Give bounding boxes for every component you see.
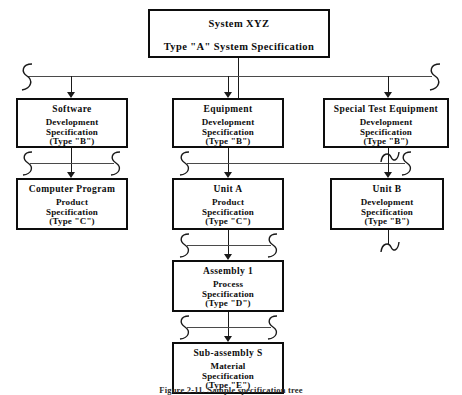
node-unit-b-spec-line3: (Type "B") (332, 217, 442, 227)
node-assembly-1: Assembly 1 Process Specification (Type "… (172, 260, 284, 312)
break-mark-right-software-bus (108, 150, 124, 177)
node-system-xyz-title: System XYZ (150, 18, 328, 30)
node-equipment-spec: Development Specification (Type "B") (174, 118, 282, 147)
node-assembly-1-title: Assembly 1 (174, 265, 282, 277)
node-computer-program: Computer Program Product Specification (… (16, 178, 128, 230)
node-unit-b-spec: Development Specification (Type "B") (332, 198, 442, 227)
break-mark-left-unit-a-bus (177, 232, 193, 259)
node-special-test-equipment-title: Special Test Equipment (325, 103, 447, 115)
node-special-test-equipment-spec: Development Specification (Type "B") (325, 118, 447, 147)
node-unit-b-title: Unit B (332, 183, 442, 195)
node-computer-program-spec: Product Specification (Type "C") (18, 198, 126, 227)
break-mark-left-software-bus (20, 150, 36, 177)
bus-line-row1 (28, 76, 432, 77)
specification-tree-diagram: System XYZ Type "A" System Specification… (0, 0, 462, 395)
break-mark-right-assembly-1-bus (265, 314, 281, 341)
node-assembly-1-spec: Process Specification (Type "D") (174, 280, 282, 309)
node-equipment-title: Equipment (174, 103, 282, 115)
break-mark-left-row1 (18, 62, 36, 92)
break-mark-right-row1 (426, 62, 444, 92)
break-mark-right-unit-a-bus (265, 232, 281, 259)
bus-line-equipment (187, 163, 405, 164)
node-computer-program-title: Computer Program (18, 183, 126, 195)
node-unit-a-spec-line3: (Type "C") (174, 217, 282, 227)
node-software-spec: Development Specification (Type "B") (18, 118, 126, 147)
bus-line-software (30, 163, 114, 164)
node-subassembly-s-title: Sub-assembly S (174, 347, 282, 359)
node-unit-a: Unit A Product Specification (Type "C") (172, 178, 284, 230)
node-software-spec-line3: (Type "B") (18, 137, 126, 147)
node-software-title: Software (18, 103, 126, 115)
node-unit-b: Unit B Development Specification (Type "… (330, 178, 444, 230)
node-equipment: Equipment Development Specification (Typ… (172, 98, 284, 148)
node-equipment-spec-line3: (Type "B") (174, 137, 282, 147)
bus-line-unit-a (187, 245, 271, 246)
node-system-xyz: System XYZ Type "A" System Specification (148, 9, 330, 58)
node-system-xyz-subtitle: Type "A" System Specification (150, 41, 328, 53)
break-mark-left-equipment-bus (177, 150, 193, 177)
node-special-test-equipment: Special Test Equipment Development Speci… (323, 98, 449, 148)
node-unit-a-title: Unit A (174, 183, 282, 195)
connector-system-to-bus (238, 58, 239, 98)
break-mark-left-assembly-1-bus (177, 314, 193, 341)
break-mark-unit-b-terminal (378, 238, 402, 256)
figure-caption: Figure 2-11. Sample specification tree (0, 385, 462, 395)
node-software: Software Development Specification (Type… (16, 98, 128, 148)
break-mark-special-test-equipment-drop (378, 148, 402, 166)
bus-line-assembly-1 (187, 327, 271, 328)
node-unit-a-spec: Product Specification (Type "C") (174, 198, 282, 227)
node-special-test-equipment-spec-line3: (Type "B") (325, 137, 447, 147)
node-assembly-1-spec-line3: (Type "D") (174, 299, 282, 309)
node-computer-program-spec-line3: (Type "C") (18, 217, 126, 227)
